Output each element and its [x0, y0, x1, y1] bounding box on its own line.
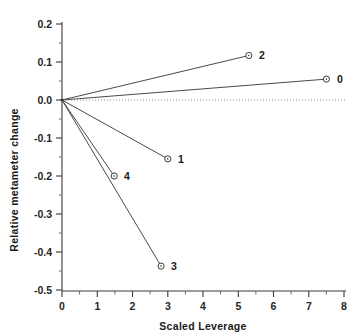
x-tick-label: 0 [59, 300, 65, 312]
x-tick-label: 1 [94, 300, 100, 312]
endpoint-label-1: 1 [178, 153, 184, 165]
series-line-1 [62, 100, 168, 159]
y-tick-label: -0.5 [34, 284, 52, 296]
chart-container: 0.2 0.1 0.0 -0.1 -0.2 -0.3 -0.4 -0.5 [0, 0, 359, 336]
series-endpoint-labels: 0 2 1 4 3 [124, 49, 343, 272]
endpoint-marker-4 [111, 173, 117, 179]
y-axis-title: Relative metameter change [8, 108, 20, 251]
x-tick-label: 4 [200, 300, 206, 312]
x-tick-label: 8 [341, 300, 347, 312]
y-axis-ticks [56, 24, 62, 290]
endpoint-label-2: 2 [259, 49, 265, 61]
endpoint-marker-3 [158, 263, 164, 269]
series-lines [62, 56, 326, 267]
series-line-4 [62, 100, 114, 176]
series-line-0 [62, 79, 326, 100]
x-tick-label: 3 [165, 300, 171, 312]
y-tick-label: -0.4 [34, 246, 52, 258]
endpoint-label-4: 4 [124, 170, 130, 182]
y-tick-label: -0.2 [34, 170, 52, 182]
y-tick-label: 0.1 [37, 56, 52, 68]
scatter-line-plot: 0.2 0.1 0.0 -0.1 -0.2 -0.3 -0.4 -0.5 [0, 0, 359, 336]
x-tick-label: 5 [235, 300, 241, 312]
y-tick-label: -0.1 [34, 132, 52, 144]
x-axis-ticks [62, 291, 344, 297]
y-tick-label: -0.3 [34, 208, 52, 220]
endpoint-marker-2 [246, 52, 252, 58]
x-tick-label: 6 [271, 300, 277, 312]
endpoint-label-3: 3 [171, 260, 177, 272]
series-line-3 [62, 100, 161, 266]
x-tick-label: 7 [306, 300, 312, 312]
y-tick-label: 0.2 [37, 18, 52, 30]
endpoint-marker-1 [165, 156, 171, 162]
x-axis-title: Scaled Leverage [159, 320, 246, 332]
x-tick-label: 2 [130, 300, 136, 312]
origin-marker [60, 98, 63, 101]
y-tick-label: 0.0 [37, 94, 52, 106]
x-axis-tick-labels: 0 1 2 3 4 5 6 7 8 [59, 300, 347, 312]
series-line-2 [62, 56, 249, 101]
endpoint-marker-0 [323, 76, 329, 82]
endpoint-label-0: 0 [337, 73, 343, 85]
y-axis-tick-labels: 0.2 0.1 0.0 -0.1 -0.2 -0.3 -0.4 -0.5 [34, 18, 52, 296]
